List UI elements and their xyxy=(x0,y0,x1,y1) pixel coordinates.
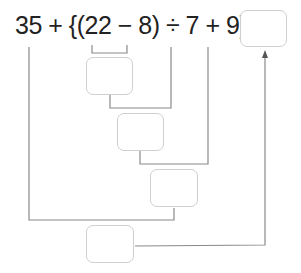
answer-box[interactable] xyxy=(240,10,287,47)
step3-box[interactable] xyxy=(150,169,198,207)
step1-box[interactable] xyxy=(86,57,133,95)
step2-box[interactable] xyxy=(117,113,164,151)
step4-box[interactable] xyxy=(86,225,134,263)
arrow-up-icon xyxy=(262,50,268,58)
